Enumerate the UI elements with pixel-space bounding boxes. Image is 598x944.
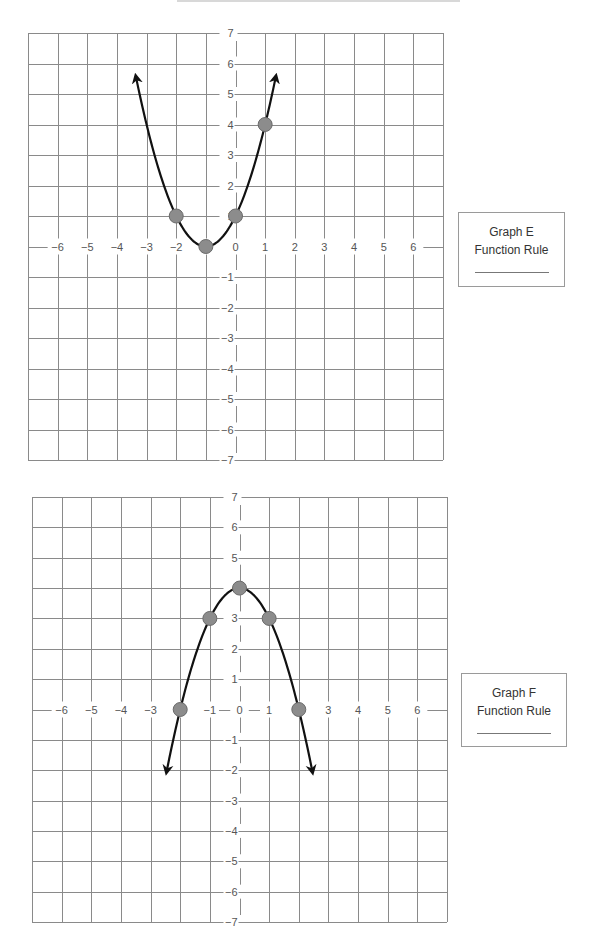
graph-f-answer-line[interactable] [477, 733, 551, 734]
x-tick-label: −6 [51, 241, 64, 253]
data-point [262, 611, 276, 625]
x-tick-label: 3 [321, 241, 327, 253]
x-tick-label: 6 [410, 241, 416, 253]
data-point [258, 118, 272, 132]
graph-e-title: Graph E [459, 224, 564, 240]
x-tick-label: −2 [170, 241, 183, 253]
y-tick-label: −7 [221, 454, 234, 466]
x-tick-label: 1 [266, 704, 272, 716]
data-point [199, 240, 213, 254]
y-tick-label: 7 [227, 27, 233, 39]
x-tick-label: −6 [55, 704, 68, 716]
y-tick-label: −1 [225, 734, 238, 746]
graph-e-answer-line[interactable] [475, 272, 549, 273]
y-tick-label: −2 [225, 764, 238, 776]
y-tick-label: −5 [221, 393, 234, 405]
axis-labels: −6−5−4−3−2−101234567654321−1−2−3−4−5−6−7 [53, 490, 427, 929]
x-tick-label: −4 [111, 241, 124, 253]
x-tick-label: 5 [385, 704, 391, 716]
data-point [169, 209, 183, 223]
x-tick-label: 5 [381, 241, 387, 253]
y-tick-label: −5 [225, 855, 238, 867]
y-tick-label: 4 [227, 119, 233, 131]
y-tick-label: 2 [231, 643, 237, 655]
x-tick-label: −5 [81, 241, 94, 253]
graph-e-function-rule-box: Graph E Function Rule [458, 212, 565, 287]
y-tick-label: 5 [231, 552, 237, 564]
x-tick-label: 4 [351, 241, 357, 253]
y-tick-label: −6 [221, 424, 234, 436]
y-tick-label: 6 [227, 58, 233, 70]
graph-f: −6−5−4−3−2−101234567654321−1−2−3−4−5−6−7 [32, 497, 448, 923]
x-tick-label: −3 [140, 241, 153, 253]
data-point [229, 209, 243, 223]
y-tick-label: −6 [225, 886, 238, 898]
graph-f-title: Graph F [462, 685, 566, 701]
data-point [203, 611, 217, 625]
y-tick-label: −7 [225, 916, 238, 928]
y-tick-label: 2 [227, 180, 233, 192]
data-point [173, 703, 187, 717]
x-tick-label: −1 [204, 704, 217, 716]
data-points [173, 581, 306, 716]
x-tick-label: 3 [325, 704, 331, 716]
data-point [292, 703, 306, 717]
x-tick-label: −5 [85, 704, 98, 716]
data-points [169, 118, 272, 254]
x-tick-label: 0 [232, 241, 238, 253]
x-tick-label: −3 [144, 704, 157, 716]
graph-canvas: −6−5−4−3−2−101234567654321−1−2−3−4−5−6−7 [28, 33, 444, 461]
function-curve [136, 78, 275, 246]
y-tick-label: −4 [221, 363, 234, 375]
graph-f-function-rule-box: Graph F Function Rule [461, 673, 567, 747]
x-tick-label: 1 [262, 241, 268, 253]
x-tick-label: −4 [115, 704, 128, 716]
y-tick-label: 5 [227, 88, 233, 100]
x-tick-label: 4 [355, 704, 361, 716]
y-tick-label: 1 [231, 673, 237, 685]
axis-labels: −6−5−4−3−2−101234567654321−1−2−3−4−5−6−7 [49, 26, 423, 467]
y-tick-label: −4 [225, 825, 238, 837]
y-tick-label: −2 [221, 302, 234, 314]
x-tick-label: 6 [414, 704, 420, 716]
data-point [233, 581, 247, 595]
y-tick-label: 3 [231, 612, 237, 624]
graph-e-function-rule-label: Function Rule [459, 242, 564, 258]
page-top-rule [177, 0, 460, 2]
graph-canvas: −6−5−4−3−2−101234567654321−1−2−3−4−5−6−7 [32, 497, 448, 923]
x-tick-label: 2 [292, 241, 298, 253]
y-tick-label: −3 [221, 332, 234, 344]
graph-f-function-rule-label: Function Rule [462, 703, 566, 719]
y-tick-label: 3 [227, 149, 233, 161]
y-tick-label: −3 [225, 795, 238, 807]
y-tick-label: −1 [221, 271, 234, 283]
graph-e: −6−5−4−3−2−101234567654321−1−2−3−4−5−6−7 [28, 33, 444, 461]
x-tick-label: 0 [236, 704, 242, 716]
y-tick-label: 6 [231, 521, 237, 533]
y-tick-label: 7 [231, 491, 237, 503]
